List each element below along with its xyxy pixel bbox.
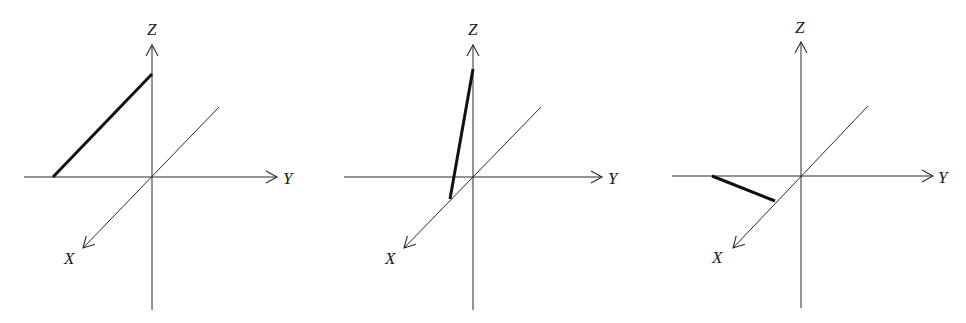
z-axis-label: Z (468, 20, 478, 39)
z-axis-label: Z (795, 18, 805, 37)
axes-panel-3: ZYX (672, 18, 949, 308)
highlighted-segment (712, 176, 775, 201)
x-axis-label: X (711, 248, 723, 267)
axes-panel-2: ZYX (344, 20, 619, 310)
x-axis-label: X (63, 249, 75, 268)
highlighted-segment (450, 69, 473, 199)
z-axis-label: Z (147, 20, 157, 39)
figure-three-3d-axes-panels: ZYXZYXZYX (0, 0, 966, 323)
axes-panel-1: ZYX (24, 20, 294, 310)
y-axis-label: Y (938, 168, 949, 187)
x-axis-label: X (384, 249, 396, 268)
y-axis-label: Y (608, 169, 619, 188)
diagram-canvas: ZYXZYXZYX (0, 0, 966, 323)
highlighted-segment (53, 74, 152, 177)
y-axis-label: Y (283, 169, 294, 188)
